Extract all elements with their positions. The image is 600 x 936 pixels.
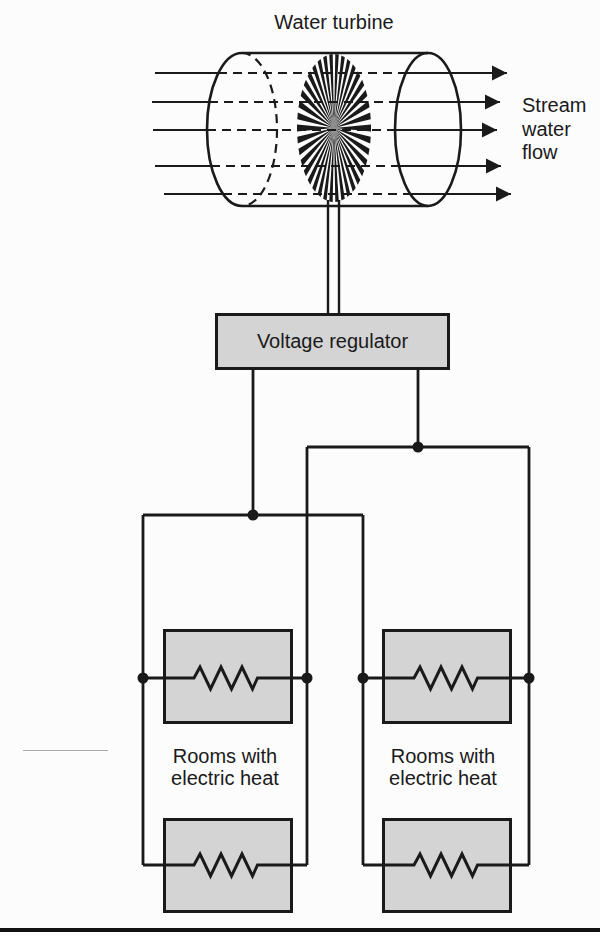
turbine-rotor-blade [334,80,364,128]
turbine-shaft [328,200,339,313]
room-box-lower-right [382,818,512,913]
junction-dot [524,673,535,684]
cylinder-right-rim [395,53,461,206]
room-box-lower-left [163,818,293,913]
turbine-rotor-blade [334,125,371,132]
turbine-rotor-blade [334,128,350,197]
diagram-page: Water turbine Stream water flow Voltage … [0,0,600,936]
room-box-upper-left [163,629,293,724]
turbine-rotor-blade [334,56,345,129]
room-box-upper-right [382,629,512,724]
turbine-rotor-blade [299,101,335,128]
cylinder-left-back-arc [242,53,277,206]
turbine-rotor-blade [318,59,334,128]
turbine-rotor-blade [334,128,370,155]
junction-dot [358,673,369,684]
turbine-rotor-blade [334,128,360,185]
turbine-rotor-blade [334,71,360,128]
page-bottom-rule [0,928,600,932]
turbine-rotor-blade [299,128,335,155]
scan-artifact-line [23,750,108,751]
voltage-regulator-label: Voltage regulator [257,330,408,353]
junction-dot [413,442,424,453]
turbine-rotor-blade [334,128,364,176]
turbine-rotor-blade [304,128,334,176]
junction-dot [248,510,259,521]
junction-dot [138,673,149,684]
turbine-rotor-blade [312,64,334,128]
diagram-title: Water turbine [274,11,393,35]
stream-flow-label-line2: water [522,118,586,142]
stream-flow-label-line3: flow [522,141,586,165]
turbine-rotor-blade [301,90,334,128]
turbine-rotor-blade [334,128,356,192]
turbine-rotor-blade [304,80,334,128]
turbine-cylinder [207,53,461,206]
stream-flow-label: Stream water flow [522,94,586,165]
turbine-rotor-blade [297,125,334,132]
rooms-caption-left: Rooms with electric heat [171,746,279,789]
turbine-rotor-icon [297,54,371,202]
rooms-caption-left-line2: electric heat [171,768,279,790]
turbine-rotor-blade [334,128,339,202]
voltage-regulator-box: Voltage regulator [215,313,450,370]
turbine-rotor-blade [318,128,334,197]
turbine-rotor-blade [323,56,334,129]
turbine-rotor-blade [334,112,371,128]
rooms-caption-right-line2: electric heat [389,768,497,790]
turbine-rotor-blade [329,54,334,128]
rooms-caption-right: Rooms with electric heat [389,746,497,789]
rooms-caption-left-line1: Rooms with [171,746,279,768]
turbine-rotor-blade [297,112,334,128]
turbine-rotor-blade [329,128,334,202]
flow-arrows [152,73,511,194]
turbine-rotor-blade [334,54,339,128]
turbine-rotor-blade [297,128,334,144]
stream-flow-label-line1: Stream [522,94,586,118]
turbine-rotor-blade [301,128,334,166]
turbine-rotor-blade [312,128,334,192]
cylinder-left-front-arc [207,53,242,206]
turbine-rotor-blade [334,128,345,201]
turbine-rotor-blade [334,64,356,128]
rooms-caption-right-line1: Rooms with [389,746,497,768]
diagram-linework [0,0,600,936]
turbine-rotor-blade [334,90,367,128]
turbine-rotor-blade [334,101,370,128]
circuit-wires [143,370,529,865]
turbine-rotor-blade [334,128,371,144]
junction-dot [302,673,313,684]
turbine-rotor-blade [323,128,334,201]
turbine-rotor-blade [308,71,334,128]
turbine-rotor-blade [334,128,367,166]
turbine-rotor-blade [308,128,334,185]
turbine-rotor-blade [334,59,350,128]
